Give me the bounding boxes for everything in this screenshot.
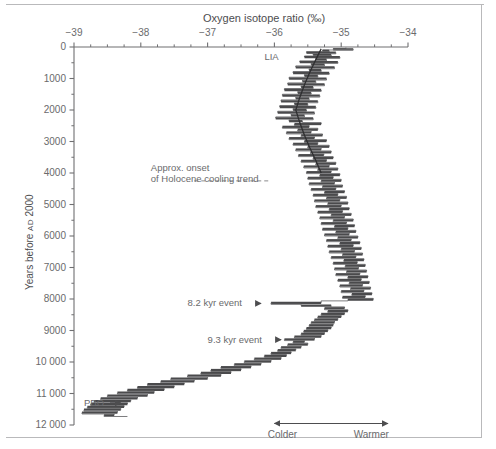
- annotation-holocene-onset: Approx. onsetof Holocene cooling trend: [151, 162, 259, 184]
- y-tick-label: 12 000: [35, 419, 66, 430]
- annotation-event-9300: 9.3 kyr event: [208, 334, 262, 345]
- y-tick-label: 3000: [44, 136, 66, 147]
- y-tick-label: 9000: [44, 325, 66, 336]
- colder-label: Colder: [268, 429, 297, 440]
- annotation-lia: LIA: [264, 51, 278, 62]
- y-tick-label: 10 000: [35, 356, 66, 367]
- x-tick-label: −38: [132, 27, 149, 38]
- y-tick-label: 6000: [44, 230, 66, 241]
- warmer-label: Warmer: [354, 429, 389, 440]
- y-tick-label: 8000: [44, 293, 66, 304]
- annotation-line-1: of Holocene cooling trend: [151, 173, 259, 184]
- figure-frame: Oxygen isotope ratio (‰) Years before AD…: [0, 0, 496, 449]
- y-tick-label: 11 000: [36, 388, 66, 399]
- annotation-line-0: Approx. onset: [151, 162, 259, 173]
- annotation-pbo: PBO: [84, 397, 104, 408]
- y-tick-label: 7000: [44, 262, 66, 273]
- y-tick-label: 0: [60, 41, 66, 52]
- x-tick-label: −34: [400, 27, 417, 38]
- oxygen-isotope-chart: [0, 0, 496, 449]
- y-tick-label: 5000: [44, 199, 66, 210]
- y-tick-label: 4000: [44, 167, 66, 178]
- isotope-record-series: [82, 48, 373, 417]
- y-tick-label: 1000: [44, 73, 66, 84]
- x-tick-label: −39: [66, 27, 83, 38]
- annotation-event-8200: 8.2 kyr event: [188, 297, 242, 308]
- x-tick-label: −36: [266, 27, 283, 38]
- y-tick-label: 2000: [44, 104, 66, 115]
- x-tick-label: −37: [199, 27, 216, 38]
- x-tick-label: −35: [333, 27, 350, 38]
